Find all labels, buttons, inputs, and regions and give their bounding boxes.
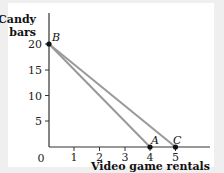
budget-line-ba — [49, 44, 150, 147]
point-b-label: B — [51, 31, 60, 44]
x-axis-title: Video game rentals — [90, 160, 210, 173]
point-c-label: C — [173, 134, 182, 147]
y-tick-label-15: 15 — [28, 64, 42, 77]
y-tick-label-20: 20 — [28, 38, 42, 51]
origin-label: 0 — [38, 152, 45, 165]
y-tick-label-10: 10 — [28, 90, 42, 103]
y-tick-label-5: 5 — [35, 115, 42, 128]
y-axis-title-line1: Candy — [0, 13, 37, 26]
point-a-label: A — [150, 134, 159, 147]
y-ticks: 5 10 15 20 — [28, 38, 49, 128]
point-b-marker — [46, 41, 51, 46]
budget-line-bc — [49, 44, 176, 147]
budget-line-chart: Candy bars 5 10 15 20 0 1 2 3 4 5 Video … — [0, 0, 224, 173]
x-tick-label-1: 1 — [71, 151, 78, 164]
